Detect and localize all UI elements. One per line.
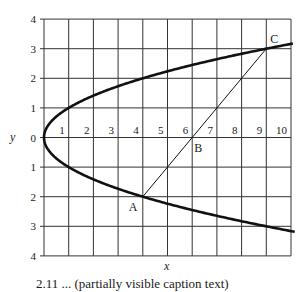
y-tick-label: 2	[31, 72, 37, 84]
point-label-a: A	[129, 200, 138, 214]
y-tick-label: 4	[31, 13, 37, 25]
y-tick-label: 2	[31, 191, 37, 203]
point-label-c: C	[270, 32, 278, 46]
x-axis-label: x	[163, 259, 170, 273]
y-tick-label: 1	[31, 102, 37, 114]
caption-text: 2.11 ... (partially visible caption text…	[36, 276, 229, 291]
x-tick-label: 5	[158, 124, 164, 136]
x-tick-label: 4	[133, 124, 139, 136]
x-tick-label: 7	[207, 124, 213, 136]
point-label-b: B	[194, 141, 202, 155]
y-tick-label: 0	[31, 132, 37, 144]
y-tick-label: 3	[31, 43, 37, 55]
y-tick-label: 3	[31, 220, 37, 232]
y-tick-label: 4	[31, 250, 37, 262]
x-tick-label: 6	[183, 124, 189, 136]
y-axis-label: y	[9, 130, 16, 144]
x-tick-label: 10	[276, 124, 288, 136]
y-tick-label: 1	[31, 161, 37, 173]
x-tick-label: 1	[59, 124, 65, 136]
x-tick-label: 9	[257, 124, 263, 136]
caption: 2.11 ... (partially visible caption text…	[36, 276, 229, 292]
x-tick-label: 3	[109, 124, 115, 136]
x-tick-label: 8	[232, 124, 238, 136]
x-tick-label: 2	[84, 124, 90, 136]
grid	[40, 19, 291, 256]
